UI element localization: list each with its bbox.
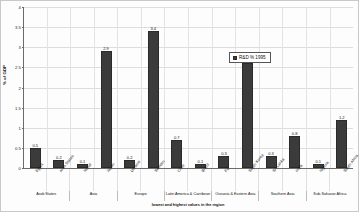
bar-slot: 0.3	[213, 7, 237, 168]
legend-swatch-icon	[233, 56, 237, 60]
y-tick-label: 0.5	[15, 145, 21, 150]
bar-slot: 0.3	[260, 7, 284, 168]
x-axis-group-labels: Arab StatesAsiaEuropeLatin America & Car…	[23, 191, 353, 201]
bar-slot: 0.8	[283, 7, 307, 168]
group-label: Southern Asia	[259, 191, 306, 201]
chart-container: % of GDP 00.511.522.533.54 0.50.20.12.90…	[0, 0, 359, 212]
bar-slot: 0.7	[165, 7, 189, 168]
x-label-slot: Sri Lanka	[259, 169, 283, 191]
x-axis-tick-labels: EgyptArab StatesNepalJapanUkraineSwedenC…	[23, 169, 353, 191]
bar-value-label: 0.2	[56, 155, 62, 160]
bar-series: 0.50.20.12.90.23.40.70.10.32.60.30.80.11…	[24, 7, 353, 168]
bar-value-label: 0.8	[292, 131, 298, 136]
bar-slot: 3.4	[142, 7, 166, 168]
bar-value-label: 0.3	[221, 151, 227, 156]
bar-slot: 1.2	[331, 7, 354, 168]
group-label: Asia	[70, 191, 117, 201]
x-axis-title: lowest and highest values in the region	[23, 202, 353, 207]
group-label: Europe	[118, 191, 165, 201]
bar-value-label: 0.7	[174, 135, 180, 140]
group-label: Arab States	[23, 191, 70, 201]
bar[interactable]: 2.9	[101, 51, 112, 168]
bar-value-label: 0.1	[315, 159, 321, 164]
x-label-slot: South Africa	[330, 169, 353, 191]
bar[interactable]: 1.2	[336, 120, 347, 168]
y-tick-label: 2	[19, 85, 21, 90]
bar-value-label: 0.5	[33, 143, 39, 148]
legend: R&D % 1995	[229, 52, 271, 63]
bar-slot: 0.1	[189, 7, 213, 168]
bar-value-label: 1.2	[339, 115, 345, 120]
bar-value-label: 0.1	[198, 159, 204, 164]
bar-value-label: 3.4	[150, 26, 156, 31]
x-label-slot: Arab States	[47, 169, 71, 191]
bar-value-label: 0.3	[268, 151, 274, 156]
legend-label: R&D % 1995	[239, 55, 266, 60]
bar-value-label: 0.1	[80, 159, 86, 164]
y-tick-label: 1.5	[15, 105, 21, 110]
y-tick-label: 3.5	[15, 25, 21, 30]
x-label-slot: Japan	[94, 169, 118, 191]
bar-slot: 0.5	[24, 7, 48, 168]
group-label: Latin America & Carribean	[165, 191, 212, 201]
x-label-slot: Ukraine	[118, 169, 142, 191]
bar-slot: 2.9	[95, 7, 119, 168]
y-tick-label: 1	[19, 125, 21, 130]
x-label-slot: Nigeria	[307, 169, 331, 191]
bar[interactable]: 3.4	[148, 31, 159, 168]
plot-area: 00.511.522.533.54 0.50.20.12.90.23.40.70…	[23, 7, 353, 169]
x-label-slot: Nepal	[70, 169, 94, 191]
bar-slot: 0.1	[307, 7, 331, 168]
bar-value-label: 0.2	[127, 155, 133, 160]
y-tick-label: 3	[19, 45, 21, 50]
bar-slot: 0.1	[71, 7, 95, 168]
y-tick-label: 4	[19, 5, 21, 10]
y-axis-title: % of GDP	[2, 65, 7, 85]
x-label-slot: India	[283, 169, 307, 191]
bar-slot: 0.2	[48, 7, 72, 168]
group-label: Oceania & Eastern Asia	[212, 191, 259, 201]
x-label-slot: Egypt	[23, 169, 47, 191]
y-tick-label: 2.5	[15, 65, 21, 70]
group-label: Sub-Saharan Africa	[307, 191, 353, 201]
x-label-slot: South Korea	[236, 169, 260, 191]
x-label-slot: Brazil	[188, 169, 212, 191]
bar-value-label: 2.9	[103, 46, 109, 51]
bar[interactable]: 2.6	[242, 63, 253, 168]
x-label-slot: Sweden	[141, 169, 165, 191]
x-label-slot: Fiji	[212, 169, 236, 191]
x-label-slot: Chile	[165, 169, 189, 191]
bar-slot: 2.6	[236, 7, 260, 168]
y-tick-label: 0	[19, 166, 21, 171]
bar-slot: 0.2	[118, 7, 142, 168]
